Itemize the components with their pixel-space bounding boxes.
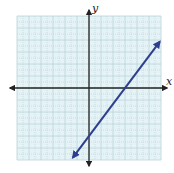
x-axis-label: x (166, 75, 173, 88)
y-axis-label: y (91, 2, 99, 15)
coordinate-plane: x y (0, 0, 174, 173)
